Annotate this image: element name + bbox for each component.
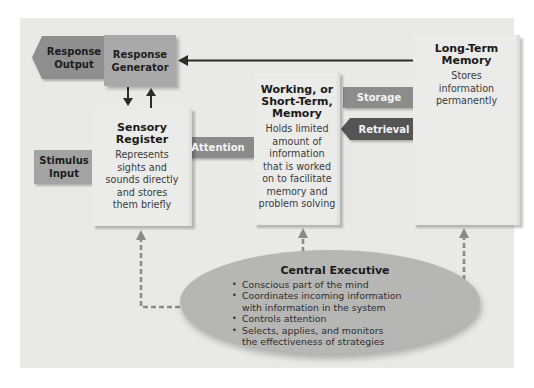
desc-line: sights and: [92, 162, 192, 175]
label-line: Output: [47, 58, 101, 71]
stimulus-input-label: StimulusInput: [34, 150, 94, 184]
response-generator-box: ResponseGenerator: [104, 35, 176, 86]
sensory-register-box: SensoryRegister Represents sights and so…: [92, 108, 192, 226]
desc-line: Represents: [92, 149, 192, 162]
label-line: Input: [39, 167, 88, 180]
storage-label: Storage: [343, 87, 415, 108]
arrow-up-icon: [146, 88, 156, 96]
desc-line: sounds directly: [92, 174, 192, 187]
bullet-text: Selects, applies, and monitors: [242, 325, 383, 336]
ce-to-sensory-dashed: [141, 238, 180, 307]
bullet-item: Controls attention: [232, 313, 452, 324]
bullet-item: Coordinates incoming informationwith inf…: [232, 290, 452, 313]
bullet-text: Conscious part of the mind: [242, 279, 369, 290]
title-line: Memory: [413, 55, 520, 67]
desc-line: amount of: [254, 136, 340, 149]
arrowhead-left-icon: [178, 55, 188, 66]
central-executive-bullets: Conscious part of the mind Coordinates i…: [232, 279, 452, 347]
long-term-memory-box: Long-Term Memory Stores information perm…: [413, 35, 520, 225]
bullet-item: Selects, applies, and monitorsthe effect…: [232, 325, 452, 348]
bullet-text: with information in the system: [242, 302, 386, 313]
response-output-label: ResponseOutput: [40, 36, 108, 79]
desc-line: Stores: [413, 70, 520, 83]
desc-line: problem solving: [254, 198, 340, 211]
desc-line: permanently: [413, 95, 520, 108]
title-line: Memory: [254, 108, 340, 120]
arrow-down-icon: [123, 98, 133, 106]
central-executive-title: Central Executive: [280, 264, 390, 277]
retrieval-label: Retrieval: [349, 118, 419, 140]
desc-line: and stores: [92, 187, 192, 200]
label-line: Response: [111, 48, 168, 61]
bullet-item: Conscious part of the mind: [232, 279, 452, 290]
arrow-up-icon: [136, 230, 146, 240]
bullet-text: Coordinates incoming information: [242, 290, 401, 301]
label-line: Stimulus: [39, 154, 88, 167]
bullet-text: Controls attention: [242, 313, 327, 324]
desc-line: them briefly: [92, 199, 192, 212]
label-line: Response: [47, 45, 101, 58]
desc-line: on to facilitate: [254, 173, 340, 186]
arrow-up-icon: [298, 228, 308, 238]
desc-line: information: [254, 148, 340, 161]
desc-line: that is worked: [254, 161, 340, 174]
desc-line: Holds limited: [254, 123, 340, 136]
desc-line: memory and: [254, 186, 340, 199]
arrow-up-icon: [459, 228, 469, 238]
bullet-text: the effectiveness of strategies: [242, 336, 384, 347]
attention-label: Attention: [181, 137, 255, 158]
desc-line: information: [413, 83, 520, 96]
label-line: Generator: [111, 61, 168, 74]
working-memory-box: Working, or Short-Term, Memory Holds lim…: [254, 72, 340, 225]
title-line: Register: [92, 134, 192, 146]
